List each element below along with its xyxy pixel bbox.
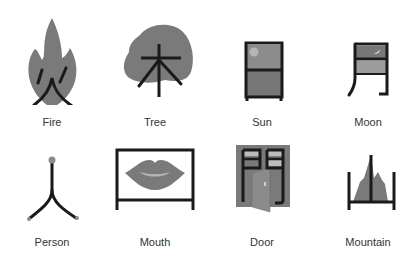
mountain-icon <box>318 120 411 225</box>
pictograph-mountain: Mountain <box>318 120 411 240</box>
door-icon <box>212 120 312 225</box>
label-mouth: Mouth <box>105 236 205 248</box>
pictograph-sun: Sun <box>212 0 312 120</box>
label-door: Door <box>212 236 312 248</box>
label-mountain: Mountain <box>318 236 411 248</box>
person-icon <box>2 120 102 225</box>
mouth-icon <box>105 120 205 225</box>
fire-icon <box>2 0 102 105</box>
pictograph-door: Door <box>212 120 312 240</box>
pictograph-tree: Tree <box>105 0 205 120</box>
tree-icon <box>105 0 205 105</box>
moon-icon <box>318 0 411 105</box>
pictograph-moon: Moon <box>318 0 411 120</box>
pictograph-person: Person <box>2 120 102 240</box>
pictograph-fire: Fire <box>2 0 102 120</box>
pictograph-mouth: Mouth <box>105 120 205 240</box>
label-person: Person <box>2 236 102 248</box>
sun-icon <box>212 0 312 105</box>
